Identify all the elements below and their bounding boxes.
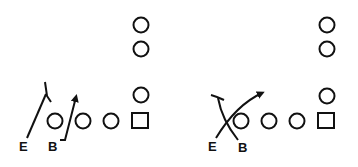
lineman-circle xyxy=(48,114,63,129)
lineman-circle xyxy=(290,114,305,129)
end-label: E xyxy=(19,139,28,154)
end-label: E xyxy=(208,139,217,154)
lineman-circle xyxy=(234,114,249,129)
center-square xyxy=(132,113,148,128)
defender-circle xyxy=(134,42,149,57)
block-tee-icon xyxy=(45,82,51,102)
center-square xyxy=(318,113,334,128)
defender-circle xyxy=(134,88,149,103)
defender-circle xyxy=(134,18,149,33)
defender-circle xyxy=(320,18,335,33)
lineman-circle xyxy=(262,114,277,129)
play-diagrams: E B E B xyxy=(0,0,358,167)
back-label: B xyxy=(48,139,57,154)
lineman-circle xyxy=(76,114,91,129)
back-label: B xyxy=(238,140,247,155)
defender-circle xyxy=(320,89,335,104)
lineman-circle xyxy=(104,114,119,129)
end-route xyxy=(27,94,46,138)
diagram-right xyxy=(211,18,335,141)
diagram-left xyxy=(27,18,149,141)
end-route xyxy=(218,98,238,140)
defender-circle xyxy=(320,42,335,57)
